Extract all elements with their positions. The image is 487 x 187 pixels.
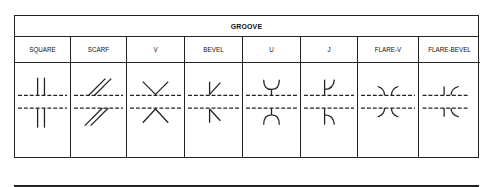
v-groove-icon <box>127 63 184 157</box>
column-label: FLARE-BEVEL <box>419 36 480 63</box>
u-groove-icon <box>243 63 300 157</box>
table-title-row: GROOVE <box>15 16 478 37</box>
column-label: J <box>301 36 357 63</box>
column-label: SCARF <box>71 36 126 63</box>
column-label: BEVEL <box>185 36 242 63</box>
table-title: GROOVE <box>231 23 262 30</box>
divider-rule <box>14 185 479 187</box>
column-square: SQUARE <box>15 36 71 157</box>
flare-bevel-groove-icon <box>419 63 480 157</box>
scarf-groove-icon <box>71 63 126 157</box>
column-scarf: SCARF <box>71 36 127 157</box>
column-bevel: BEVEL <box>185 36 243 157</box>
column-flare-bevel: FLARE-BEVEL <box>419 36 480 157</box>
column-label: FLARE-V <box>358 36 418 63</box>
column-label: V <box>127 36 184 63</box>
flare-v-groove-icon <box>358 63 418 157</box>
groove-symbol-table: GROOVE SQUARE SCARF <box>14 15 479 158</box>
column-label: U <box>243 36 300 63</box>
j-groove-icon <box>301 63 357 157</box>
square-groove-icon <box>15 63 70 157</box>
column-v: V <box>127 36 185 157</box>
column-flare-v: FLARE-V <box>358 36 419 157</box>
column-u: U <box>243 36 301 157</box>
column-j: J <box>301 36 358 157</box>
column-label: SQUARE <box>15 36 70 63</box>
bevel-groove-icon <box>185 63 242 157</box>
